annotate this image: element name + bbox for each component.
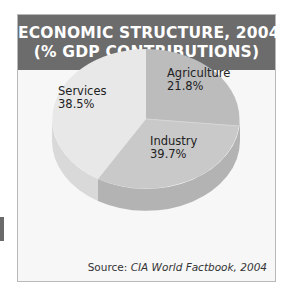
- slice-label-services: Services 38.5%: [58, 85, 107, 111]
- chart-panel: ECONOMIC STRUCTURE, 2004 (% GDP CONTRIBU…: [17, 14, 276, 282]
- industry-value: 39.7%: [150, 148, 197, 161]
- slice-label-agriculture: Agriculture 21.8%: [167, 67, 230, 93]
- agriculture-value: 21.8%: [167, 80, 230, 93]
- source-prefix: Source:: [88, 261, 131, 273]
- left-edge-fragment: [0, 217, 4, 241]
- slice-label-industry: Industry 39.7%: [150, 135, 197, 161]
- source-name: CIA World Factbook, 2004: [131, 261, 267, 273]
- pie-chart: [18, 15, 277, 283]
- services-value: 38.5%: [58, 98, 107, 111]
- source-note: Source: CIA World Factbook, 2004: [88, 261, 267, 273]
